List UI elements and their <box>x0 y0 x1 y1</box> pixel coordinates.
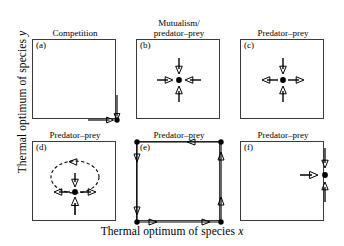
panel-e-letter: (e) <box>140 142 150 153</box>
equilibrium-point-bottom-right <box>218 219 223 224</box>
equilibrium-point <box>72 189 78 195</box>
panel-a: Competition (a) <box>32 28 118 119</box>
panel-f-letter: (f) <box>244 142 253 153</box>
panel-c-letter: (c) <box>244 40 254 51</box>
arrow-right-to-edge <box>300 171 318 178</box>
panel-c-plot-area: (c) <box>240 39 324 119</box>
arrow-up-inward <box>176 86 183 102</box>
equilibrium-point <box>176 77 182 83</box>
panel-b-title: Mutualism/ predator–prey <box>136 18 222 38</box>
arrow-right-outward <box>288 77 304 84</box>
panel-f-plot-area: (f) <box>240 141 324 221</box>
arrow-left-outward <box>54 189 70 196</box>
arrow-right-to-corner <box>88 117 114 123</box>
equilibrium-point <box>280 77 286 83</box>
equilibrium-point-top-right <box>218 139 223 144</box>
panel-e-plot-area: (e) <box>136 141 220 221</box>
panel-e-title: Predator–prey <box>136 130 222 140</box>
arrow-right-outward <box>80 189 96 196</box>
x-axis-label-text: Thermal optimum of species <box>101 225 238 237</box>
panel-d-letter: (d) <box>36 142 47 153</box>
arrow-up-to-edge <box>322 182 328 202</box>
panel-a-letter: (a) <box>36 40 46 51</box>
panel-a-title: Competition <box>32 28 118 38</box>
arrow-right-edge-up <box>218 142 224 222</box>
arrow-down-inward <box>176 58 183 74</box>
panel-b-plot-area: (b) <box>136 39 220 119</box>
y-axis-label-text: Thermal optimum of species <box>16 36 28 173</box>
phase-portrait-figure: Thermal optimum of species y Thermal opt… <box>0 0 344 246</box>
arrow-down-inward <box>280 58 287 74</box>
limit-cycle-ellipse <box>51 161 99 193</box>
panel-a-plot-area: (a) <box>32 39 116 119</box>
arrow-up-inward <box>280 86 287 102</box>
arrow-left-outward <box>262 77 278 84</box>
y-axis-label: Thermal optimum of species y <box>16 2 28 202</box>
y-axis-label-variable: y <box>16 31 28 36</box>
arrow-left-edge-down <box>134 142 140 222</box>
equilibrium-point <box>114 117 119 122</box>
panel-c-title: Predator–prey <box>240 28 326 38</box>
panel-d: Predator–prey (d) <box>32 130 118 221</box>
panel-d-title: Predator–prey <box>32 130 118 140</box>
arrow-left-inward <box>185 77 201 84</box>
x-axis-label-variable: x <box>238 225 243 237</box>
panel-b: Mutualism/ predator–prey (b) <box>136 18 222 119</box>
arrow-down-to-corner <box>114 95 120 121</box>
panel-c: Predator–prey (c) <box>240 28 326 119</box>
x-axis-label: Thermal optimum of species x <box>0 225 344 237</box>
equilibrium-point-bottom-left <box>134 219 139 224</box>
panel-b-letter: (b) <box>140 40 151 51</box>
equilibrium-point <box>322 172 328 178</box>
arrow-down-inward <box>72 173 79 187</box>
arrow-up-inward <box>71 197 78 215</box>
panel-e: Predator–prey (e) <box>136 130 222 221</box>
panel-d-plot-area: (d) <box>32 141 116 221</box>
arrow-cycle-counterclockwise <box>69 159 77 165</box>
equilibrium-point-top-left <box>134 139 139 144</box>
arrow-down-to-edge <box>322 148 328 168</box>
panel-f-title: Predator–prey <box>240 130 326 140</box>
panel-f: Predator–prey (f) <box>240 130 326 221</box>
arrow-right-inward <box>157 77 173 84</box>
